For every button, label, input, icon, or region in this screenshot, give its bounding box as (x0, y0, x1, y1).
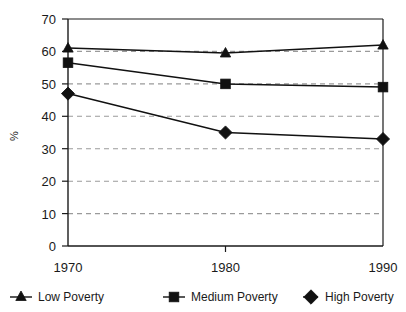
ytick-label-70: 70 (42, 12, 56, 27)
xtick-label-1980: 1980 (211, 260, 240, 275)
xtick-label-1970: 1970 (54, 260, 83, 275)
chart-legend: Low Poverty Medium Poverty High Poverty (10, 290, 394, 304)
ytick-label-40: 40 (42, 109, 56, 124)
line-chart: % (0, 0, 406, 312)
ytick-label-60: 60 (42, 44, 56, 59)
ytick-label-10: 10 (42, 207, 56, 222)
square-icon (169, 292, 179, 302)
datapoint-medium-1970 (63, 58, 73, 68)
ytick-label-30: 30 (42, 142, 56, 157)
legend-label-high-poverty: High Poverty (325, 290, 394, 304)
xtick-label-1990: 1990 (369, 260, 398, 275)
legend-label-medium-poverty: Medium Poverty (191, 290, 278, 304)
ytick-label-20: 20 (42, 174, 56, 189)
chart-container: % (0, 0, 406, 312)
y-axis-title-label: % (8, 131, 20, 141)
ytick-label-0: 0 (49, 239, 56, 254)
ytick-label-50: 50 (42, 77, 56, 92)
legend-label-low-poverty: Low Poverty (38, 290, 104, 304)
datapoint-medium-1990 (378, 82, 388, 92)
y-axis-title: % (8, 131, 20, 141)
datapoint-medium-1980 (221, 79, 231, 89)
